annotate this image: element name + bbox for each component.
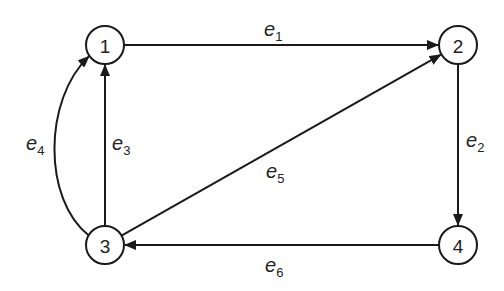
node-2: 2 [439,26,477,64]
edge-label-subscript: 3 [123,143,130,158]
edge-label-e3: e3 [112,132,130,158]
node-label: 3 [100,236,111,257]
directed-graph: 1234 e1e2e3e4e5e6 [0,0,504,291]
edge-label-subscript: 2 [477,140,484,155]
edge-label-letter: e [265,254,276,276]
edge-label-subscript: 5 [277,171,284,186]
edge-label-letter: e [466,129,477,151]
edge-label-e6: e6 [265,254,283,280]
edge-label-e2: e2 [466,129,484,155]
node-4: 4 [439,226,477,264]
edge-label-letter: e [112,132,123,154]
node-label: 2 [453,36,464,57]
node-label: 1 [100,36,111,57]
edge-label-e1: e1 [264,18,282,44]
edge-label-e5: e5 [266,160,284,186]
edge-label-subscript: 6 [276,265,283,280]
edge-label-subscript: 1 [275,29,282,44]
node-3: 3 [86,226,124,264]
edge-e5 [122,55,441,236]
node-1: 1 [86,26,124,64]
edge-label-e4: e4 [26,132,44,158]
node-label: 4 [453,236,464,257]
edge-label-letter: e [266,160,277,182]
edge-label-letter: e [264,18,275,40]
edge-e4 [54,56,88,235]
edge-label-subscript: 4 [37,143,44,158]
edge-label-letter: e [26,132,37,154]
